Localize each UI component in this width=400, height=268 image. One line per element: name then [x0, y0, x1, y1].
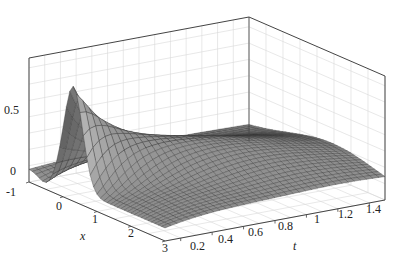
z-tick-0-5: 0.5: [4, 103, 19, 117]
x-tick-1: 1: [92, 212, 98, 226]
t-tick-1-2: 1.2: [338, 207, 353, 221]
t-tick-0-8: 0.8: [278, 219, 293, 233]
t-tick-1: 1: [314, 212, 320, 226]
t-tick-0-6: 0.6: [248, 225, 263, 239]
t-tick-1-4: 1.4: [366, 202, 381, 216]
surface-mesh: [29, 86, 385, 228]
x-tick-2: 2: [128, 226, 134, 240]
t-tick-0-2: 0.2: [190, 239, 205, 253]
x-tick-3: 3: [162, 241, 168, 255]
x-axis-label: x: [79, 229, 86, 243]
z-tick-0: 0: [10, 164, 16, 178]
x-tick-neg1: -1: [6, 185, 16, 199]
t-tick-0-4: 0.4: [218, 232, 233, 246]
x-tick-0: 0: [56, 199, 62, 213]
surface-plot: 0 0.5 -1 0 1 2 3 x 0.2 0.4 0.6 0.8 1 1.2…: [0, 0, 400, 268]
t-axis-label: t: [293, 239, 297, 253]
